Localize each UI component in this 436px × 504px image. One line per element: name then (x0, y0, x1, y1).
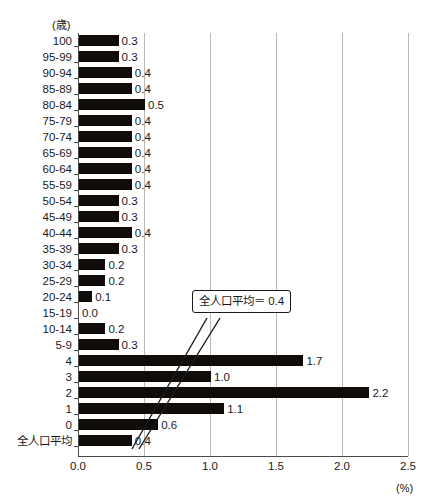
y-axis-tick (74, 110, 78, 111)
bar-value-label: 0.4 (135, 161, 151, 177)
bar-row-label: 80-84 (43, 97, 72, 113)
y-axis-tick (74, 190, 78, 191)
y-axis-tick (74, 222, 78, 223)
bar (79, 83, 132, 94)
average-callout: 全人口平均＝ 0.4 (192, 290, 291, 313)
y-axis-tick (74, 158, 78, 159)
bar (79, 371, 211, 382)
bar (79, 99, 145, 110)
y-axis-unit-label: (歳) (52, 16, 70, 32)
y-axis-tick (74, 302, 78, 303)
bar-row: 41.7 (78, 353, 408, 369)
x-axis-line (78, 456, 408, 457)
bar-row-label: 75-79 (43, 113, 72, 129)
bar-row: 5-90.3 (78, 337, 408, 353)
bar (79, 131, 132, 142)
bar-row-label: 2 (66, 385, 72, 401)
bar-row: 70-740.4 (78, 129, 408, 145)
bar-value-label: 0.4 (135, 113, 151, 129)
bar-value-label: 0.3 (122, 337, 138, 353)
bar-row-label: 65-69 (43, 145, 72, 161)
bar-row-label: 0 (66, 417, 72, 433)
bar-value-label: 0.1 (95, 289, 111, 305)
y-axis-tick (74, 126, 78, 127)
bar-row-label: 55-59 (43, 177, 72, 193)
bar (79, 195, 119, 206)
bar-row-label: 95-99 (43, 49, 72, 65)
gridline (408, 33, 409, 456)
bar-value-label: 0.6 (161, 417, 177, 433)
y-axis-tick (74, 206, 78, 207)
bar-row: 55-590.4 (78, 177, 408, 193)
y-axis-tick (74, 318, 78, 319)
y-axis-tick (74, 94, 78, 95)
bar-value-label: 0.2 (108, 273, 124, 289)
bar-chart: (歳) 1000.395-990.390-940.485-890.480-840… (0, 0, 436, 504)
bar-row: 1000.3 (78, 33, 408, 49)
bar (79, 419, 158, 430)
bar-row-label: 30-34 (43, 257, 72, 273)
bar (79, 211, 119, 222)
bar-value-label: 0.4 (135, 81, 151, 97)
bar-row: 80-840.5 (78, 97, 408, 113)
bar-row: 90-940.4 (78, 65, 408, 81)
bar-value-label: 0.4 (135, 433, 151, 449)
y-axis-tick (74, 270, 78, 271)
bar-value-label: 0.4 (135, 129, 151, 145)
bar-row: 22.2 (78, 385, 408, 401)
bar-value-label: 0.3 (122, 209, 138, 225)
bar (79, 35, 119, 46)
bar (79, 403, 224, 414)
x-axis-unit-label: (%) (396, 482, 413, 494)
y-axis-tick (74, 62, 78, 63)
y-axis-tick (74, 414, 78, 415)
bar-row: 10-140.2 (78, 321, 408, 337)
bar-row-label: 90-94 (43, 65, 72, 81)
bar-value-label: 0.3 (122, 241, 138, 257)
x-axis-tick-label: 0.0 (58, 460, 98, 472)
bar (79, 227, 132, 238)
x-axis-tick-label: 1.0 (190, 460, 230, 472)
bar-value-label: 0.4 (135, 177, 151, 193)
bar-row-label: 25-29 (43, 273, 72, 289)
bar-row: 60-640.4 (78, 161, 408, 177)
bar (79, 179, 132, 190)
bar (79, 147, 132, 158)
bar-value-label: 0.4 (135, 225, 151, 241)
bar-row: 40-440.4 (78, 225, 408, 241)
bar-row: 35-390.3 (78, 241, 408, 257)
bar-row-label: 70-74 (43, 129, 72, 145)
bar-row-label: 45-49 (43, 209, 72, 225)
y-axis-tick (74, 78, 78, 79)
y-axis-tick (74, 366, 78, 367)
y-axis-tick (74, 174, 78, 175)
bar-value-label: 0.3 (122, 193, 138, 209)
bar-row-label: 4 (66, 353, 72, 369)
bar (79, 387, 369, 398)
bar-value-label: 1.7 (306, 353, 322, 369)
bar-row-label: 20-24 (43, 289, 72, 305)
bar-value-label: 0.2 (108, 321, 124, 337)
x-axis-tick-label: 2.0 (322, 460, 362, 472)
bar-value-label: 0.5 (148, 97, 164, 113)
y-axis-tick (74, 286, 78, 287)
bar (79, 291, 92, 302)
bar-row: 31.0 (78, 369, 408, 385)
bar-row-label: 35-39 (43, 241, 72, 257)
bar-row-label: 15-19 (43, 305, 72, 321)
bar-value-label: 1.1 (227, 401, 243, 417)
bar-row: 75-790.4 (78, 113, 408, 129)
bar (79, 67, 132, 78)
bar-value-label: 0.4 (135, 65, 151, 81)
bar-row-label: 50-54 (43, 193, 72, 209)
bar-value-label: 0.2 (108, 257, 124, 273)
x-axis-tick-label: 0.5 (124, 460, 164, 472)
bar-row-label: 10-14 (43, 321, 72, 337)
y-axis-tick (74, 238, 78, 239)
bar (79, 51, 119, 62)
bar-row-label: 3 (66, 369, 72, 385)
bar-row-label: 100 (53, 33, 72, 49)
bar-row: 65-690.4 (78, 145, 408, 161)
bar (79, 243, 119, 254)
bar-row: 11.1 (78, 401, 408, 417)
